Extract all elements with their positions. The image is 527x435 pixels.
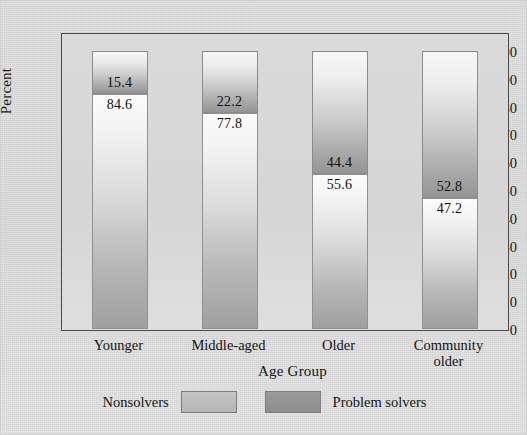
bar-value-label-problem-solvers: 15.4 — [93, 75, 147, 91]
bar-younger: 84.615.4 — [92, 51, 148, 329]
bar-value-label-problem-solvers: 22.2 — [203, 94, 257, 110]
legend-swatch-nonsolvers — [181, 391, 237, 413]
x-axis-title: Age Group — [1, 363, 527, 380]
y-axis-title: Percent — [0, 31, 15, 151]
bar-segment-nonsolvers: 84.6 — [92, 94, 148, 329]
bar-value-label-nonsolvers: 84.6 — [93, 97, 147, 113]
bar-value-label-problem-solvers: 52.8 — [423, 179, 477, 195]
x-axis-category-label: Older — [279, 337, 399, 353]
x-axis-category-label: Middle-aged — [169, 337, 289, 353]
x-axis-category-line: Older — [279, 337, 399, 353]
bar-value-label-nonsolvers: 77.8 — [203, 116, 257, 132]
legend-label-nonsolvers: Nonsolvers — [103, 394, 169, 411]
bar-value-label-problem-solvers: 44.4 — [313, 155, 367, 171]
x-axis-category-line: Younger — [59, 337, 179, 353]
x-axis-category-line: Middle-aged — [169, 337, 289, 353]
plot-area: 84.615.477.822.255.644.447.252.8 — [61, 33, 509, 331]
bar-middle-aged: 77.822.2 — [202, 51, 258, 329]
bar-community-older: 47.252.8 — [422, 51, 478, 329]
legend-swatch-problem-solvers — [265, 391, 321, 413]
bar-value-label-nonsolvers: 55.6 — [313, 177, 367, 193]
bar-segment-problem-solvers: 22.2 — [202, 51, 258, 113]
bar-older: 55.644.4 — [312, 51, 368, 329]
x-axis-title-text: Age Group — [258, 363, 327, 379]
chart-legend: Nonsolvers Problem solvers — [1, 391, 527, 413]
bar-segment-nonsolvers: 77.8 — [202, 113, 258, 329]
bar-segment-problem-solvers: 15.4 — [92, 51, 148, 94]
bar-segment-nonsolvers: 47.2 — [422, 198, 478, 329]
figure-canvas: Percent 0102030405060708090100 84.615.47… — [0, 0, 527, 435]
legend-label-problem-solvers: Problem solvers — [333, 394, 427, 411]
bar-segment-nonsolvers: 55.6 — [312, 174, 368, 329]
bar-value-label-nonsolvers: 47.2 — [423, 201, 477, 217]
bar-segment-problem-solvers: 52.8 — [422, 51, 478, 198]
bar-segment-problem-solvers: 44.4 — [312, 51, 368, 174]
x-axis-category-label: Younger — [59, 337, 179, 353]
x-axis-category-line: Community — [389, 337, 509, 353]
